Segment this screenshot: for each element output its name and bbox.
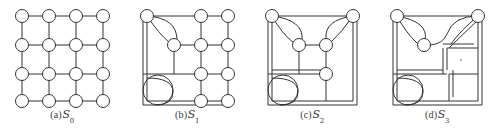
node xyxy=(222,95,235,108)
panel-c-caption-symbol: S xyxy=(312,108,320,121)
panel-c-caption-subscript: 2 xyxy=(320,117,325,125)
panel-d-graph xyxy=(375,0,500,110)
node xyxy=(97,39,110,52)
node xyxy=(320,39,333,52)
boundary-outer xyxy=(147,16,228,101)
panel-a-caption-subscript: 0 xyxy=(70,117,75,125)
panel-d-caption-subscript: 3 xyxy=(445,117,450,125)
node xyxy=(16,68,29,81)
panel-b-caption: (b)S1 xyxy=(125,108,250,123)
node xyxy=(70,39,83,52)
panel-c-graph xyxy=(250,0,375,110)
node xyxy=(16,10,29,23)
node xyxy=(347,10,360,23)
node xyxy=(70,10,83,23)
node xyxy=(70,95,83,108)
panel-b-graph xyxy=(125,0,250,110)
panel-d-caption: (d)S3 xyxy=(375,108,500,123)
panel-c-caption: (c)S2 xyxy=(250,108,375,123)
node xyxy=(195,39,208,52)
panel-c-caption-index: (c) xyxy=(300,109,312,120)
node xyxy=(16,95,29,108)
node xyxy=(472,10,485,23)
node xyxy=(391,10,404,23)
node xyxy=(195,10,208,23)
dot-marker xyxy=(460,59,462,61)
node xyxy=(97,10,110,23)
boundary-outer xyxy=(268,16,357,105)
node xyxy=(97,95,110,108)
node xyxy=(70,68,83,81)
panel-a: (a)S0 xyxy=(0,0,125,139)
panel-a-caption-symbol: S xyxy=(62,108,70,121)
panel-b-caption-index: (b) xyxy=(175,109,187,120)
node xyxy=(168,39,181,52)
panel-d-caption-index: (d) xyxy=(425,109,437,120)
node xyxy=(222,39,235,52)
panel-a-caption-index: (a) xyxy=(50,109,62,120)
node xyxy=(222,10,235,23)
node xyxy=(266,10,279,23)
node xyxy=(418,39,431,52)
panel-c: (c)S2 xyxy=(250,0,375,139)
node xyxy=(43,95,56,108)
node xyxy=(320,68,333,81)
boundary-outer-2 xyxy=(143,16,228,105)
panel-a-graph xyxy=(0,0,125,110)
node xyxy=(195,95,208,108)
node xyxy=(43,68,56,81)
node xyxy=(43,39,56,52)
node xyxy=(195,68,208,81)
boundary-outer-2 xyxy=(272,16,353,101)
node xyxy=(43,10,56,23)
boundary-outer-2 xyxy=(397,16,478,101)
node xyxy=(293,39,306,52)
panel-b: (b)S1 xyxy=(125,0,250,139)
node xyxy=(141,10,154,23)
panel-b-caption-subscript: 1 xyxy=(195,117,200,125)
figure-root: (a)S0 xyxy=(0,0,500,139)
panel-d: (d)S3 xyxy=(375,0,500,139)
panel-a-caption: (a)S0 xyxy=(0,108,125,123)
node xyxy=(16,39,29,52)
node xyxy=(97,68,110,81)
node xyxy=(222,68,235,81)
